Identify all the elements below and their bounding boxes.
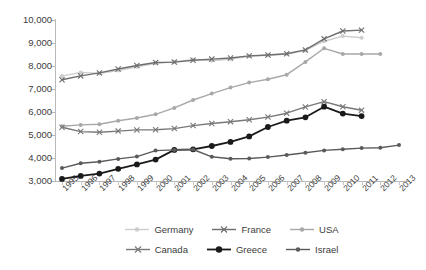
data-point-israel: [360, 146, 364, 150]
data-point-usa: [378, 52, 382, 56]
data-point-usa: [303, 60, 307, 64]
data-point-israel: [229, 157, 233, 161]
data-point-germany: [360, 36, 364, 40]
data-point-usa: [154, 112, 158, 116]
data-point-israel: [397, 143, 401, 147]
legend-item-germany[interactable]: Germany: [124, 224, 193, 235]
legend-marker-greece-icon: [206, 244, 232, 255]
data-point-israel: [210, 155, 214, 159]
series-line-israel: [62, 145, 399, 168]
series-line-germany: [62, 36, 362, 76]
data-point-israel: [154, 149, 158, 153]
legend-item-israel[interactable]: Israel: [285, 244, 338, 255]
data-point-israel: [116, 157, 120, 161]
legend-item-usa[interactable]: USA: [289, 224, 339, 235]
data-point-israel: [378, 146, 382, 150]
legend-marker-usa-icon: [289, 224, 315, 235]
chart-legend: GermanyFranceUSACanadaGreeceIsrael: [56, 219, 407, 259]
data-point-usa: [172, 106, 176, 110]
legend-label: Germany: [154, 224, 193, 235]
legend-marker-canada-icon: [125, 244, 151, 255]
data-point-israel: [97, 160, 101, 164]
data-point-israel: [341, 147, 345, 151]
data-point-usa: [116, 119, 120, 123]
line-chart: 3,0004,0005,0006,0007,0008,0009,00010,00…: [0, 0, 426, 270]
data-point-israel: [172, 148, 176, 152]
data-point-israel: [135, 155, 139, 159]
legend-row: GermanyFranceUSA: [56, 219, 407, 239]
data-point-usa: [135, 116, 139, 120]
data-point-greece: [209, 143, 215, 149]
data-point-greece: [303, 114, 309, 120]
legend-marker-israel-icon: [285, 244, 311, 255]
data-point-usa: [266, 77, 270, 81]
data-point-israel: [266, 155, 270, 159]
data-point-greece: [59, 176, 65, 182]
data-point-israel: [285, 153, 289, 157]
data-point-greece: [115, 166, 121, 172]
data-point-usa: [97, 122, 101, 126]
legend-row: CanadaGreeceIsrael: [56, 239, 407, 259]
data-point-greece: [359, 113, 365, 119]
legend-label: Greece: [236, 244, 267, 255]
legend-marker-france-icon: [211, 224, 237, 235]
legend-label: Canada: [155, 244, 188, 255]
legend-item-canada[interactable]: Canada: [125, 244, 188, 255]
data-point-germany: [341, 34, 345, 38]
data-point-greece: [340, 111, 346, 117]
data-point-greece: [246, 134, 252, 140]
legend-label: Israel: [315, 244, 338, 255]
data-point-israel: [79, 161, 83, 165]
data-point-greece: [284, 118, 290, 124]
data-point-israel: [191, 148, 195, 152]
data-point-germany: [60, 74, 64, 78]
legend-label: USA: [319, 224, 339, 235]
data-point-greece: [78, 173, 84, 179]
data-point-usa: [360, 52, 364, 56]
legend-item-greece[interactable]: Greece: [206, 244, 267, 255]
data-point-usa: [341, 52, 345, 56]
series-line-canada: [62, 102, 362, 133]
data-point-usa: [79, 123, 83, 127]
data-point-israel: [60, 166, 64, 170]
data-point-greece: [321, 104, 327, 110]
data-point-greece: [153, 157, 159, 163]
data-point-greece: [228, 139, 234, 145]
data-point-israel: [303, 151, 307, 155]
data-point-usa: [285, 73, 289, 77]
data-point-usa: [322, 46, 326, 50]
data-point-israel: [322, 148, 326, 152]
legend-label: France: [241, 224, 271, 235]
legend-item-france[interactable]: France: [211, 224, 271, 235]
data-point-usa: [247, 81, 251, 85]
legend-marker-germany-icon: [124, 224, 150, 235]
data-point-usa: [191, 98, 195, 102]
series-line-greece: [62, 107, 362, 179]
data-point-greece: [134, 162, 140, 168]
data-point-israel: [247, 157, 251, 161]
data-point-greece: [265, 124, 271, 130]
data-point-usa: [210, 92, 214, 96]
data-point-greece: [97, 171, 103, 177]
data-point-usa: [229, 86, 233, 90]
